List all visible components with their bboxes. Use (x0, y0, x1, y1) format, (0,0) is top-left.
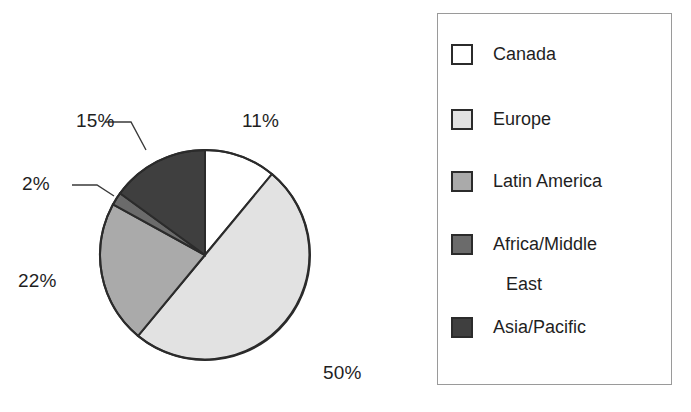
legend-swatch-latin-america-icon (451, 171, 473, 192)
pie-value-label-canada: 11% (242, 110, 279, 132)
legend-item-africa-middle-east[interactable]: Africa/Middle (451, 231, 597, 257)
pie-value-label-europe: 50% (323, 362, 362, 384)
pie-value-label-asia-pacific: 15% (76, 110, 115, 132)
legend: Canada Europe Latin America Africa/Middl… (437, 13, 672, 385)
legend-swatch-asia-pacific-icon (451, 317, 473, 338)
legend-item-latin-america[interactable]: Latin America (451, 168, 602, 194)
legend-label-asia-pacific: Asia/Pacific (493, 318, 586, 336)
legend-item-europe[interactable]: Europe (451, 106, 551, 132)
legend-label-latin-america: Latin America (493, 172, 602, 190)
leader-line-africa-middle-east (72, 185, 114, 196)
legend-label-africa-middle-east-line2: East (506, 275, 542, 293)
legend-label-europe: Europe (493, 110, 551, 128)
pie-value-label-latin-america: 22% (18, 270, 57, 292)
legend-label-canada: Canada (493, 45, 556, 63)
legend-swatch-canada-icon (451, 44, 473, 65)
legend-item-canada[interactable]: Canada (451, 41, 556, 67)
legend-label-africa-middle-east: Africa/Middle (493, 235, 597, 253)
legend-swatch-africa-middle-east-icon (451, 234, 473, 255)
legend-swatch-europe-icon (451, 109, 473, 130)
legend-item-asia-pacific[interactable]: Asia/Pacific (451, 314, 586, 340)
pie-value-label-africa-middle-east: 2% (22, 173, 50, 195)
pie-chart-figure: 11% 50% 22% 2% 15% Canada Europe Latin A… (0, 0, 691, 412)
